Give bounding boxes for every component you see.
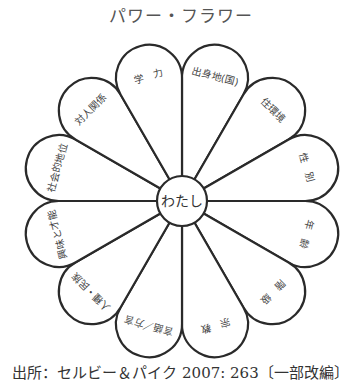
source-caption: 出所：セルビー＆パイク 2007: 263〔一部改編〕: [0, 361, 361, 382]
center-label: わたし: [161, 193, 203, 209]
power-flower-diagram: 出身地(国)住環境性 別年 齢階 級宗 教言語／方言人種・民族興味と才能社会的地…: [0, 0, 361, 385]
